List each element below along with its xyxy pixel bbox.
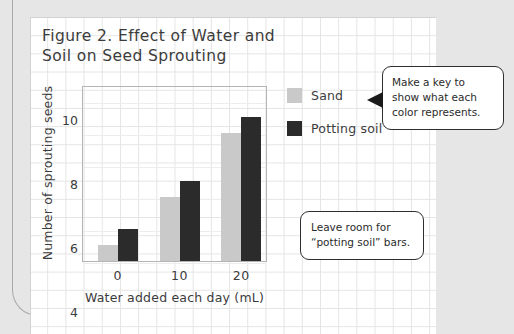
x-tick-label: 10 xyxy=(160,268,200,283)
callout-leave-room: Leave room for “potting soil” bars. xyxy=(300,211,424,260)
legend-swatch xyxy=(287,88,302,103)
y-tick-label: 4 xyxy=(70,305,78,320)
bar-sand-0 xyxy=(98,245,118,261)
bar-sand-20 xyxy=(221,133,241,261)
x-tick-label: 20 xyxy=(221,268,261,283)
legend-label: Sand xyxy=(311,88,343,103)
bar-group xyxy=(221,87,261,261)
y-tick-label: 10 xyxy=(62,113,78,128)
bar-group xyxy=(160,87,200,261)
callout-arrow-icon xyxy=(367,92,383,108)
plot-area: 0246810 01020 xyxy=(82,86,267,262)
bar-potting-soil-0 xyxy=(118,229,138,261)
y-tick-label: 6 xyxy=(70,241,78,256)
y-axis-title: Number of sprouting seeds xyxy=(40,82,56,264)
bar-potting-soil-20 xyxy=(241,117,261,261)
y-gridline: 0 xyxy=(83,263,266,264)
bar-group xyxy=(98,87,138,261)
legend-item: Potting soil xyxy=(287,121,382,136)
bar-potting-soil-10 xyxy=(180,181,200,261)
bars-layer xyxy=(83,87,266,261)
callout-make-a-key: Make a key to show what each color repre… xyxy=(382,66,504,130)
worksheet-screenshot: Figure 2. Effect of Water and Soil on Se… xyxy=(0,0,514,334)
x-tick-label: 0 xyxy=(98,268,138,283)
x-axis-title: Water added each day (mL) xyxy=(82,290,267,305)
y-tick-label: 8 xyxy=(70,177,78,192)
bar-sand-10 xyxy=(160,197,180,261)
legend-swatch xyxy=(287,121,302,136)
legend-label: Potting soil xyxy=(311,121,382,136)
figure-title: Figure 2. Effect of Water and Soil on Se… xyxy=(42,26,302,66)
